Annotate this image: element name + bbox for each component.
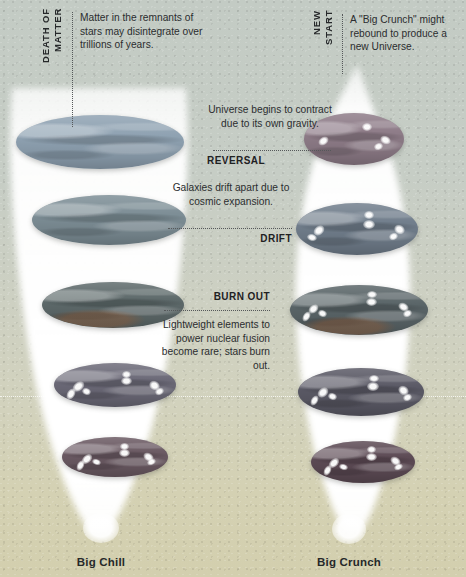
new-start-label-line2: START (323, 10, 334, 45)
new-start-label-line1: NEW (311, 10, 322, 35)
disc-right-2 (296, 203, 418, 255)
disc-left-1 (16, 115, 184, 169)
disc-shading (32, 195, 186, 245)
new-start-leader-line (342, 14, 343, 74)
burn-out-leader-line (164, 310, 270, 311)
new-start-label: NEW START (311, 10, 337, 66)
burn-out-kicker: BURN OUT (164, 291, 270, 302)
disc-right-4 (298, 368, 424, 416)
disc-right-3 (290, 285, 428, 335)
death-of-matter-note: Matter in the remnants of stars may disi… (80, 11, 208, 52)
drift-kicker: DRIFT (168, 233, 292, 244)
galaxy-speck (366, 298, 377, 306)
infographic-stage: DEATH OF MATTER Matter in the remnants o… (0, 0, 466, 577)
galaxy-speck (366, 453, 377, 461)
big-chill-caption: Big Chill (41, 556, 161, 568)
death-of-matter-leader-line (72, 12, 73, 127)
disc-left-2 (32, 195, 186, 245)
galaxy-speck (363, 220, 375, 229)
disc-shading (16, 115, 184, 169)
burn-out-note: Lightweight elements to power nuclear fu… (150, 318, 270, 372)
death-of-matter-label-line1: DEATH OF (40, 8, 51, 63)
reversal-note: Universe begins to contract due to its o… (207, 103, 333, 130)
disc-right-5 (311, 441, 415, 483)
death-of-matter-label-line2: MATTER (52, 8, 63, 52)
reversal-leader-line (213, 150, 331, 151)
big-crunch-caption: Big Crunch (289, 556, 409, 568)
new-start-note: A "Big Crunch" might rebound to produce … (350, 13, 466, 54)
drift-note: Galaxies drift apart due to cosmic expan… (168, 181, 294, 208)
drift-leader-line (168, 228, 292, 229)
death-of-matter-label: DEATH OF MATTER (40, 8, 66, 94)
galaxy-speck (369, 375, 379, 382)
disc-left-5 (62, 437, 168, 477)
reversal-kicker: REVERSAL (207, 155, 333, 166)
